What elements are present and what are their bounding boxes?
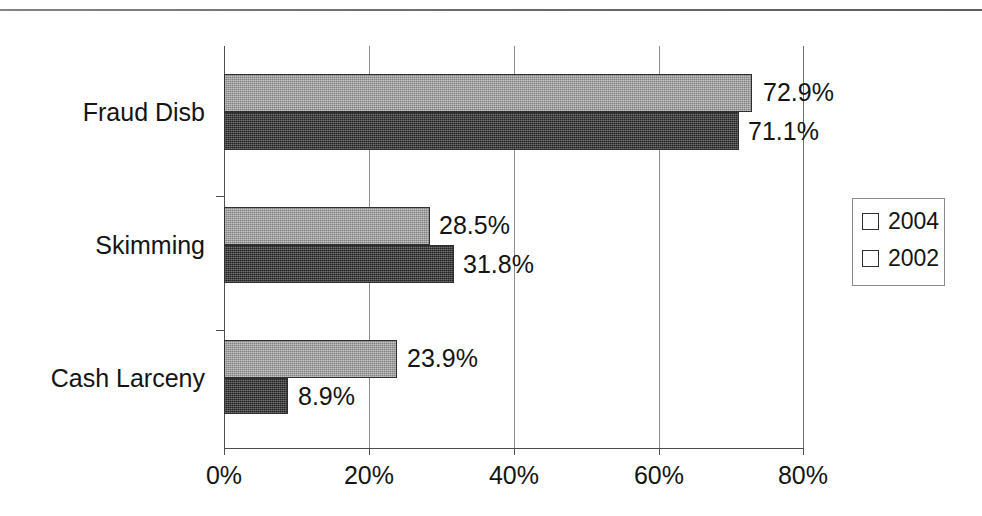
xtick-label-40: 40% — [469, 463, 559, 488]
xtick-label-60: 60% — [614, 463, 704, 488]
xtick-label-20: 20% — [324, 463, 414, 488]
data-label-cash-larceny-2004: 23.9% — [407, 346, 478, 371]
category-tick-2 — [216, 330, 225, 331]
data-label-skimming-2004: 28.5% — [439, 213, 510, 238]
legend-swatch-2002 — [862, 250, 879, 267]
xtick-mark-80 — [803, 448, 804, 455]
xtick-mark-0 — [224, 448, 225, 455]
data-label-fraud-disb-2004: 72.9% — [763, 80, 834, 105]
bar-skimming-2002 — [224, 245, 454, 283]
category-label-skimming: Skimming — [5, 233, 205, 258]
legend-label-2002: 2002 — [888, 247, 939, 270]
legend-label-2004: 2004 — [888, 210, 939, 233]
bar-cash-larceny-2004 — [224, 340, 397, 378]
xtick-label-80: 80% — [758, 463, 848, 488]
data-label-cash-larceny-2002: 8.9% — [298, 384, 355, 409]
category-tick-1 — [216, 196, 225, 197]
legend-entry-2002: 2002 — [862, 247, 939, 270]
xtick-mark-60 — [659, 448, 660, 455]
bar-skimming-2004 — [224, 207, 430, 245]
legend-swatch-2004 — [862, 213, 879, 230]
xtick-label-0: 0% — [179, 463, 269, 488]
xtick-mark-20 — [369, 448, 370, 455]
page-top-rule — [0, 9, 982, 11]
data-label-fraud-disb-2002: 71.1% — [748, 119, 819, 144]
bar-fraud-disb-2004 — [224, 74, 752, 112]
bar-fraud-disb-2002 — [224, 112, 739, 150]
data-label-skimming-2002: 31.8% — [463, 252, 534, 277]
legend-entry-2004: 2004 — [862, 210, 939, 233]
category-label-cash-larceny: Cash Larceny — [5, 366, 205, 391]
category-label-fraud-disb: Fraud Disb — [5, 100, 205, 125]
chart-figure: Fraud Disb Skimming Cash Larceny 72.9% 7… — [0, 0, 982, 516]
xtick-mark-40 — [514, 448, 515, 455]
bar-cash-larceny-2002 — [224, 378, 288, 414]
legend: 2004 2002 — [852, 198, 945, 286]
gridline-80 — [803, 46, 804, 448]
plot-area: 72.9% 71.1% 28.5% 31.8% 23.9% 8.9% — [224, 46, 803, 448]
